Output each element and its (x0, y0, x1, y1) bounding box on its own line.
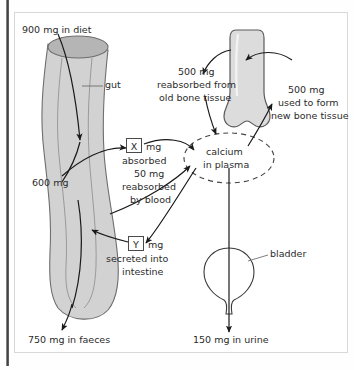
label-secreted-unit: mg (148, 239, 163, 252)
label-urine-output: 150 mg in urine (193, 334, 269, 347)
label-plasma-line2: in plasma (203, 159, 249, 172)
label-diet-intake: 900 mg in diet (22, 24, 91, 37)
label-bladder: bladder (270, 248, 306, 261)
label-bone-old-line1: reabsorbed from (157, 79, 236, 92)
label-plasma-line1: calcium (206, 146, 243, 159)
diagram-stage: 900 mg in diet gut 600 mg X mg absorbed … (0, 0, 354, 370)
bladder-leader-line (248, 255, 268, 261)
label-reabsorbed-blood-line2: by blood (130, 194, 171, 207)
label-faeces-output: 750 mg in faeces (28, 334, 110, 347)
label-absorbed-unit: mg (146, 141, 161, 154)
label-bone-new-line2: new bone tissue (271, 110, 349, 123)
label-secreted-line1: secreted into (106, 253, 168, 266)
label-bone-new-line1: used to form (278, 97, 339, 110)
label-reabsorbed-blood-value: 50 mg (134, 168, 164, 181)
answer-box-y[interactable]: Y (128, 236, 144, 251)
label-gut-remaining: 600 mg (32, 177, 68, 190)
label-bone-new-value: 500 mg (288, 84, 324, 97)
label-bone-old-line2: old bone tissue (159, 92, 231, 105)
label-bone-old-value: 500 mg (178, 66, 214, 79)
label-secreted-line2: intestine (122, 266, 163, 279)
answer-box-x[interactable]: X (126, 138, 142, 153)
label-absorbed: absorbed (122, 155, 166, 168)
label-reabsorbed-blood-line1: reabsorbed (122, 181, 176, 194)
label-gut: gut (105, 79, 121, 92)
